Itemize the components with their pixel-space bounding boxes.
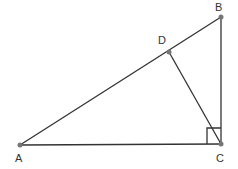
label-d: D xyxy=(158,34,166,46)
point-b xyxy=(219,15,224,20)
point-c xyxy=(219,142,224,147)
segment-ab xyxy=(20,17,221,145)
segment-cd xyxy=(169,52,221,144)
point-a xyxy=(18,143,23,148)
segment-ac xyxy=(20,144,221,145)
label-b: B xyxy=(215,1,222,13)
label-a: A xyxy=(15,152,23,164)
label-c: C xyxy=(216,152,224,164)
point-d xyxy=(167,50,172,55)
triangle-diagram: A B C D xyxy=(0,0,238,169)
